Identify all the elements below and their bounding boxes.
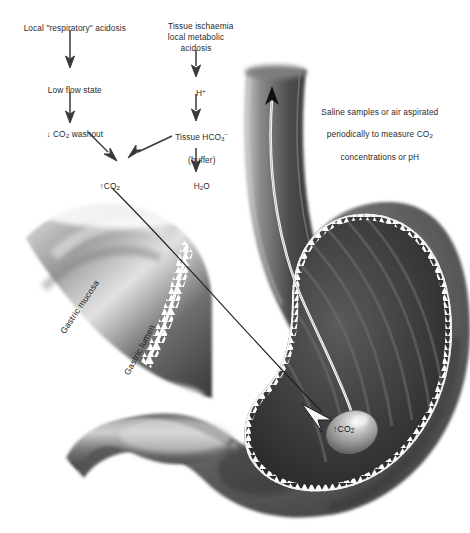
flow-node-label: ↑CO2 — [100, 181, 120, 191]
flow-node-co2-washout: ↓ CO2 washout — [16, 118, 124, 152]
flow-node-water: H2O — [168, 170, 226, 204]
aspiration-annotation: Saline samples or air aspirated periodic… — [284, 96, 466, 174]
annotation-line-3: concentrations or pH — [341, 152, 420, 162]
annotation-line-2: periodically to measure CO2 — [327, 129, 433, 139]
flow-node-label: Tissue HCO3− — [175, 132, 228, 142]
flow-node-label: Low flow state — [48, 85, 102, 95]
flow-node-tissue-ischaemia: Tissue ischaemia local metabolic acidosi… — [146, 10, 246, 65]
flow-node-low-flow-state: Low flow state — [20, 74, 120, 107]
flow-node-label: Local "respiratory" acidosis — [24, 23, 126, 33]
flow-node-label: Tissue ischaemia local metabolic acidosi… — [168, 21, 234, 53]
flow-node-respiratory-acidosis: Local "respiratory" acidosis — [6, 12, 134, 45]
flow-node-label: H+ — [196, 88, 206, 98]
flow-node-label: ↓ CO2 washout — [46, 129, 103, 139]
balloon-co2-label: ↑CO2 — [333, 424, 355, 434]
annotation-line-1: Saline samples or air aspirated — [321, 107, 438, 117]
flow-node-h-plus: H+ — [166, 74, 226, 110]
figure-root: Local "respiratory" acidosis Low flow st… — [0, 0, 470, 533]
flow-node-increased-co2: ↑CO2 — [74, 170, 136, 204]
flow-node-tissue-bicarbonate: Tissue HCO3− (buffer) — [150, 118, 244, 177]
gastric-mucosa-inset — [26, 196, 212, 420]
flow-node-label: H2O — [194, 181, 210, 191]
flow-node-sublabel: (buffer) — [188, 155, 215, 165]
